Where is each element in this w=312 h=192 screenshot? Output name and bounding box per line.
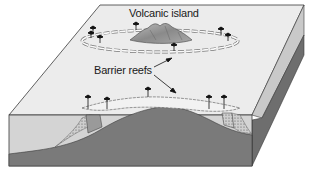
barrier-reef-diagram: Volcanic island Barrier reefs	[0, 0, 312, 192]
volcanic-island-label: Volcanic island	[129, 7, 199, 19]
block-diagram	[0, 0, 312, 192]
barrier-reefs-label: Barrier reefs	[94, 64, 152, 76]
